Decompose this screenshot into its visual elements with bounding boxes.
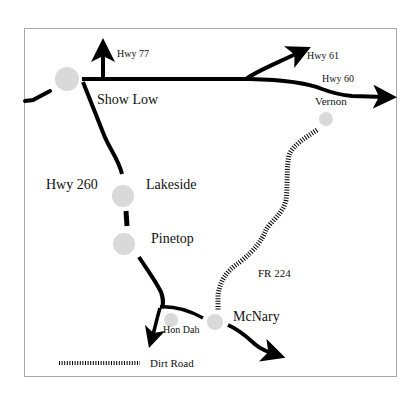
- hwy260-segment: [126, 211, 127, 226]
- town-mcnary: [207, 314, 223, 330]
- label-hwy61: Hwy 61: [307, 51, 339, 61]
- label-hwy260: Hwy 260: [46, 178, 98, 192]
- label-vernon: Vernon: [315, 96, 347, 107]
- label-fr224: FR 224: [258, 268, 291, 279]
- road-map: [0, 0, 420, 403]
- label-hwy77: Hwy 77: [117, 49, 149, 59]
- label-lakeside: Lakeside: [146, 178, 197, 192]
- hwy260-south-road: [139, 257, 163, 308]
- town-show-low: [55, 67, 79, 91]
- town-vernon: [319, 112, 333, 126]
- fr224-dirt-road: [218, 130, 317, 310]
- mcnary-southeast-road: [228, 325, 274, 354]
- legend-dirt-road-label: Dirt Road: [150, 358, 194, 369]
- label-show-low: Show Low: [97, 93, 158, 107]
- town-lakeside: [112, 185, 134, 207]
- label-pinetop: Pinetop: [151, 232, 194, 246]
- honda-south-road: [152, 308, 160, 338]
- label-mcnary: McNary: [233, 310, 280, 324]
- hwy60-west-road: [25, 91, 50, 101]
- town-pinetop: [113, 233, 135, 255]
- hwy61-road: [246, 52, 300, 79]
- label-hon-dah: Hon Dah: [163, 325, 199, 335]
- label-hwy60: Hwy 60: [322, 74, 354, 84]
